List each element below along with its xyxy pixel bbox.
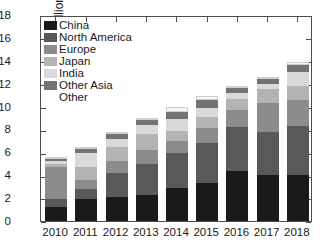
legend-label: Other bbox=[59, 92, 88, 104]
legend-swatch bbox=[44, 93, 57, 102]
bar-segment bbox=[257, 77, 279, 79]
bar-segment bbox=[106, 134, 128, 139]
y-tick bbox=[306, 222, 311, 223]
bar-segment bbox=[106, 132, 128, 134]
bar-segment bbox=[287, 100, 309, 126]
bar-segment bbox=[45, 157, 67, 159]
legend-item[interactable]: Europe bbox=[44, 44, 132, 55]
bar-segment bbox=[196, 128, 218, 143]
bar-segment bbox=[75, 189, 97, 199]
bar-segment bbox=[257, 79, 279, 84]
bar-segment bbox=[257, 103, 279, 132]
bar-segment bbox=[106, 173, 128, 197]
legend-item[interactable]: Japan bbox=[44, 56, 132, 67]
bar-segment bbox=[196, 96, 218, 99]
legend-item[interactable]: Other bbox=[44, 92, 132, 103]
bar-stack bbox=[136, 15, 158, 221]
bar-segment bbox=[45, 164, 67, 167]
bar-stack bbox=[287, 15, 309, 221]
legend: ChinaNorth AmericaEuropeJapanIndiaOther … bbox=[44, 20, 132, 104]
y-tick-label: 4 bbox=[0, 170, 11, 182]
bar-segment bbox=[196, 117, 218, 128]
legend-item[interactable]: North America bbox=[44, 32, 132, 43]
bar-segment bbox=[106, 139, 128, 147]
bar-segment bbox=[45, 161, 67, 163]
legend-label: North America bbox=[59, 32, 132, 44]
y-tick-label: 12 bbox=[0, 79, 11, 91]
bar-segment bbox=[257, 89, 279, 103]
legend-label: Other Asia bbox=[59, 80, 113, 92]
legend-swatch bbox=[44, 45, 57, 54]
bar-segment bbox=[45, 199, 67, 207]
bar-segment bbox=[166, 112, 188, 119]
bar-segment bbox=[166, 153, 188, 187]
bar-segment bbox=[257, 175, 279, 221]
plot-area: ChinaNorth AmericaEuropeJapanIndiaOther … bbox=[40, 16, 312, 222]
legend-swatch bbox=[44, 69, 57, 78]
y-tick-label: 18 bbox=[0, 10, 11, 22]
bar-segment bbox=[196, 100, 218, 108]
bar-segment bbox=[75, 149, 97, 154]
figure: Heat pumps (Millions) 024681012141618 20… bbox=[0, 0, 325, 249]
bar-segment bbox=[106, 161, 128, 172]
bar-segment bbox=[287, 65, 309, 72]
bar-segment bbox=[166, 107, 188, 113]
bar-segment bbox=[226, 99, 248, 110]
x-tick-label: 2018 bbox=[277, 226, 317, 238]
bar-segment bbox=[106, 197, 128, 221]
bar-segment bbox=[287, 126, 309, 175]
bar-segment bbox=[166, 141, 188, 154]
bar-segment bbox=[136, 118, 158, 120]
y-tick-label: 2 bbox=[0, 193, 11, 205]
legend-swatch bbox=[44, 21, 57, 30]
bar-segment bbox=[257, 132, 279, 175]
y-tick bbox=[41, 222, 46, 223]
bar-segment bbox=[45, 207, 67, 221]
y-tick-label: 8 bbox=[0, 124, 11, 136]
bar-segment bbox=[136, 195, 158, 221]
bar-segment bbox=[287, 72, 309, 86]
legend-label: China bbox=[59, 20, 89, 32]
bar-segment bbox=[75, 199, 97, 221]
bar-segment bbox=[136, 150, 158, 164]
bar-segment bbox=[287, 175, 309, 221]
legend-item[interactable]: China bbox=[44, 20, 132, 31]
bar-segment bbox=[75, 147, 97, 149]
legend-item[interactable]: Other Asia bbox=[44, 80, 132, 91]
bar-segment bbox=[196, 183, 218, 221]
legend-label: India bbox=[59, 68, 84, 80]
bar-stack bbox=[166, 15, 188, 221]
bar-segment bbox=[75, 167, 97, 180]
legend-label: Japan bbox=[59, 56, 90, 68]
bar-stack bbox=[226, 15, 248, 221]
bar-segment bbox=[226, 88, 248, 93]
bar-segment bbox=[226, 127, 248, 170]
y-tick-label: 6 bbox=[0, 147, 11, 159]
bar-segment bbox=[226, 86, 248, 88]
bar-segment bbox=[287, 62, 309, 65]
bar-segment bbox=[166, 188, 188, 221]
bar-segment bbox=[257, 84, 279, 90]
y-tick-label: 10 bbox=[0, 102, 11, 114]
bar-segment bbox=[136, 164, 158, 195]
bar-stack bbox=[196, 15, 218, 221]
bar-segment bbox=[226, 93, 248, 99]
bar-stack bbox=[257, 15, 279, 221]
legend-item[interactable]: India bbox=[44, 68, 132, 79]
bar-segment bbox=[166, 131, 188, 141]
y-tick-label: 0 bbox=[0, 216, 11, 228]
bar-segment bbox=[75, 180, 97, 189]
bar-segment bbox=[136, 125, 158, 134]
y-tick-label: 16 bbox=[0, 33, 11, 45]
legend-label: Europe bbox=[59, 44, 96, 56]
bar-segment bbox=[136, 134, 158, 150]
bar-segment bbox=[226, 110, 248, 127]
legend-swatch bbox=[44, 81, 57, 90]
bar-segment bbox=[166, 119, 188, 130]
bar-segment bbox=[226, 171, 248, 221]
legend-swatch bbox=[44, 33, 57, 42]
bar-segment bbox=[196, 108, 218, 117]
bar-segment bbox=[287, 86, 309, 100]
bar-segment bbox=[196, 143, 218, 183]
bar-segment bbox=[106, 147, 128, 162]
